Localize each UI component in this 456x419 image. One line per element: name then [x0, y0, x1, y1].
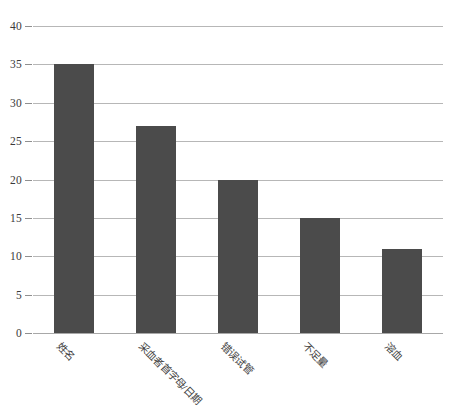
y-tick-mark [25, 333, 32, 334]
y-tick-mark [25, 103, 32, 104]
y-tick-label: 20 [10, 174, 22, 186]
y-tick-label: 15 [10, 212, 22, 224]
bar [218, 180, 258, 334]
gridline [33, 64, 443, 65]
caption-strip [0, 408, 456, 419]
bar [300, 218, 340, 333]
bar-chart: 0510152025303540 姓名采血者首字母/日期错误试管不足量溶血 [0, 0, 456, 419]
bar [382, 249, 422, 333]
y-tick-mark [25, 180, 32, 181]
x-axis-labels: 姓名采血者首字母/日期错误试管不足量溶血 [33, 333, 443, 419]
x-tick-label: 姓名 [55, 341, 77, 363]
y-tick-mark [25, 256, 32, 257]
x-tick-label: 溶血 [383, 341, 405, 363]
y-tick-label: 10 [10, 250, 22, 262]
y-tick-mark [25, 26, 32, 27]
gridline [33, 26, 443, 27]
y-tick-label: 35 [10, 58, 22, 70]
y-tick-label: 5 [16, 289, 22, 301]
plot-area: 0510152025303540 [33, 26, 443, 333]
y-tick-mark [25, 64, 32, 65]
y-tick-label: 30 [10, 97, 22, 109]
gridline [33, 141, 443, 142]
x-tick-label: 错误试管 [219, 341, 255, 377]
gridline [33, 103, 443, 104]
y-tick-label: 40 [10, 20, 22, 32]
y-tick-mark [25, 218, 32, 219]
y-tick-label: 0 [16, 327, 22, 339]
bar [136, 126, 176, 333]
y-tick-label: 25 [10, 135, 22, 147]
x-tick-label: 采血者首字母/日期 [137, 341, 203, 407]
bar [54, 64, 94, 333]
y-tick-mark [25, 295, 32, 296]
x-tick-label: 不足量 [301, 341, 330, 370]
y-tick-mark [25, 141, 32, 142]
